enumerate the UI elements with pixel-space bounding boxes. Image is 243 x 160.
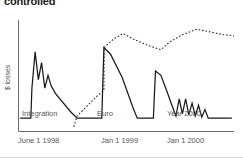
- annotation-year-2000: Year 2000: [167, 109, 201, 118]
- footer-divider: [0, 157, 243, 158]
- annotation-integration: Integration: [22, 109, 57, 118]
- chart-figure: controlled $ losses Integration Euro Yea…: [0, 0, 243, 160]
- x-tick-label-3: Jan 1 2000: [167, 136, 204, 145]
- x-tick-label-1: June 1 1998: [18, 136, 59, 145]
- series-actual-losses: [20, 48, 232, 119]
- annotation-euro: Euro: [97, 109, 113, 118]
- x-tick-label-2: Jan 1 1999: [101, 136, 138, 145]
